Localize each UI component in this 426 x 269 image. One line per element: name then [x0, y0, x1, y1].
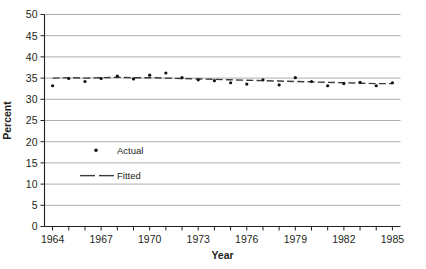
- y-tick-label: 10: [26, 178, 38, 190]
- data-point: [310, 80, 313, 83]
- data-point: [358, 81, 361, 84]
- x-tick-label: 1976: [235, 233, 259, 245]
- legend-actual-label: Actual: [117, 145, 143, 156]
- data-point: [326, 84, 329, 87]
- y-tick-label: 25: [26, 114, 38, 126]
- data-point: [375, 84, 378, 87]
- y-tick-label: 45: [26, 30, 38, 42]
- x-tick-label: 1970: [138, 233, 162, 245]
- y-tick-label: 40: [26, 51, 38, 63]
- data-point: [132, 77, 135, 80]
- legend-actual-marker-icon: [94, 148, 97, 151]
- data-point: [164, 71, 167, 74]
- data-point: [278, 83, 281, 86]
- data-point: [148, 74, 151, 77]
- y-tick-label: 30: [26, 93, 38, 105]
- legend-fitted-label: Fitted: [117, 170, 141, 181]
- y-tick-label: 15: [26, 157, 38, 169]
- x-tick-label: 1979: [284, 233, 308, 245]
- data-point: [245, 82, 248, 85]
- x-tick-label: 1967: [89, 233, 113, 245]
- y-tick-label: 5: [32, 199, 38, 211]
- data-point: [197, 78, 200, 81]
- data-point: [213, 79, 216, 82]
- data-point: [180, 76, 183, 79]
- data-point: [100, 77, 103, 80]
- data-point: [67, 77, 70, 80]
- y-axis-title: Percent: [1, 101, 13, 140]
- data-point: [51, 84, 54, 87]
- x-tick-label: 1973: [187, 233, 211, 245]
- chart-container: 05101520253035404550 1964196719701973197…: [0, 0, 426, 269]
- data-point: [342, 82, 345, 85]
- data-point: [261, 78, 264, 81]
- x-tick-label: 1985: [381, 233, 405, 245]
- data-point: [116, 74, 119, 77]
- y-tick-label: 50: [26, 8, 38, 20]
- y-tick-label: 20: [26, 136, 38, 148]
- data-point: [391, 81, 394, 84]
- x-tick-label: 1982: [332, 233, 356, 245]
- y-tick-label: 35: [26, 72, 38, 84]
- x-axis-title: Year: [211, 249, 233, 261]
- data-point: [294, 76, 297, 79]
- y-tick-label: 0: [32, 220, 38, 232]
- percent-vs-year-chart: 05101520253035404550 1964196719701973197…: [0, 0, 426, 269]
- chart-background: [0, 0, 426, 269]
- data-point: [83, 80, 86, 83]
- data-point: [229, 81, 232, 84]
- x-tick-label: 1964: [41, 233, 65, 245]
